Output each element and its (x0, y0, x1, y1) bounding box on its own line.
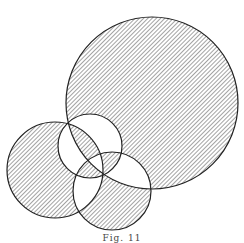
figure-caption: Fig. 11 (0, 233, 244, 243)
